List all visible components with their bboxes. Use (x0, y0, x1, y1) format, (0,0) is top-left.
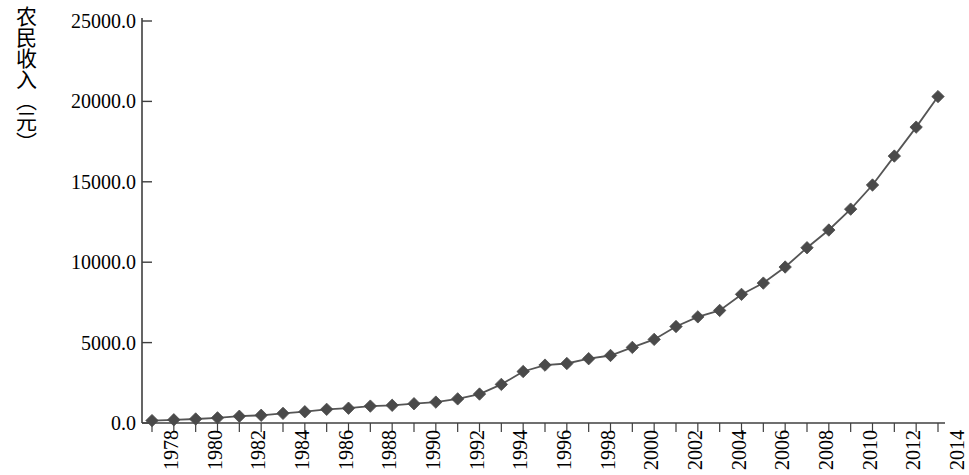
x-axis-tick-label: 2002 (684, 430, 707, 470)
x-axis-tick-label: 2012 (902, 430, 925, 470)
x-axis-tick-label: 1994 (509, 430, 532, 470)
x-axis-tick-label: 1986 (335, 430, 358, 470)
x-axis-tick-label: 2006 (771, 430, 794, 470)
x-axis-tick-label: 1984 (291, 430, 314, 470)
x-axis-tick-label: 2000 (640, 430, 663, 470)
x-axis-tick-label: 1998 (597, 430, 620, 470)
x-axis-tick-label: 1978 (160, 430, 183, 470)
x-axis-tick-label: 2010 (859, 430, 882, 470)
x-axis-tick-label: 1980 (204, 430, 227, 470)
x-axis-tick-label: 1996 (553, 430, 576, 470)
x-axis-tick-label: 2008 (815, 430, 838, 470)
x-axis-tick-label: 2004 (728, 430, 751, 470)
x-axis-tick-label: 1990 (422, 430, 445, 470)
x-axis-tick-label: 2014 (946, 430, 969, 470)
x-axis-tick-label: 1988 (378, 430, 401, 470)
x-axis-tick-label: 1992 (466, 430, 489, 470)
x-axis-tick-label: 1982 (247, 430, 270, 470)
